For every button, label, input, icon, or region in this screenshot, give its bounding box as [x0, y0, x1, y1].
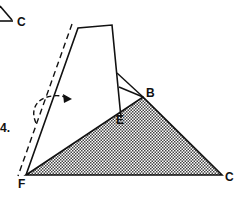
label-f: F [18, 177, 25, 191]
shaded-triangle-fbc [26, 97, 222, 175]
label-b: B [146, 86, 155, 100]
step-number: 4. [0, 121, 10, 135]
previous-step-triangle-fragment [0, 6, 13, 21]
label-e: E [116, 113, 124, 127]
fold-lines-near-b [117, 73, 143, 97]
folding-diagram: C 4. B E F C [0, 0, 248, 203]
label-top-c: C [17, 15, 26, 29]
label-c: C [225, 170, 234, 184]
